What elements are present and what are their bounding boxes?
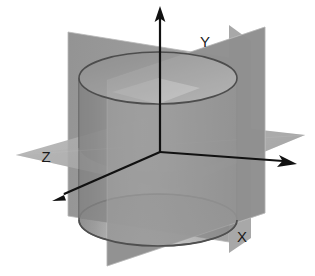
coordinate-system-diagram: Y Z X [0, 0, 315, 276]
axis-label-y: Y [200, 33, 210, 50]
axis-label-z: Z [41, 148, 50, 165]
axis-label-x: X [237, 228, 247, 245]
figure-container: Y Z X [0, 0, 315, 276]
